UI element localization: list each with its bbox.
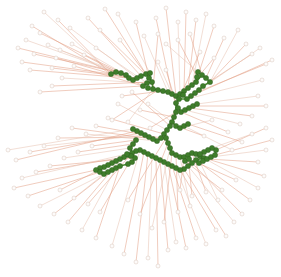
leaf-node[interactable] — [238, 122, 242, 126]
leaf-node[interactable] — [230, 148, 234, 152]
leaf-node[interactable] — [20, 176, 24, 180]
leaf-node[interactable] — [212, 56, 216, 60]
leaf-node[interactable] — [264, 126, 268, 130]
leaf-node[interactable] — [240, 212, 244, 216]
leaf-node[interactable] — [244, 42, 248, 46]
hub-node[interactable] — [133, 137, 138, 142]
leaf-node[interactable] — [146, 102, 150, 106]
leaf-node[interactable] — [106, 116, 110, 120]
leaf-node[interactable] — [54, 56, 58, 60]
leaf-node[interactable] — [258, 46, 262, 50]
leaf-node[interactable] — [176, 210, 180, 214]
hub-node[interactable] — [193, 79, 198, 84]
leaf-node[interactable] — [110, 118, 114, 122]
leaf-node[interactable] — [58, 48, 62, 52]
leaf-node[interactable] — [164, 6, 168, 10]
leaf-node[interactable] — [154, 16, 158, 20]
leaf-node[interactable] — [176, 20, 180, 24]
leaf-node[interactable] — [142, 34, 146, 38]
leaf-node[interactable] — [184, 10, 188, 14]
leaf-node[interactable] — [184, 246, 188, 250]
leaf-node[interactable] — [166, 248, 170, 252]
hub-node[interactable] — [180, 92, 185, 97]
leaf-node[interactable] — [56, 18, 60, 22]
hub-node[interactable] — [118, 70, 123, 75]
leaf-node[interactable] — [188, 204, 192, 208]
hub-node[interactable] — [108, 71, 113, 76]
leaf-node[interactable] — [66, 220, 70, 224]
leaf-node[interactable] — [146, 256, 150, 260]
hub-node[interactable] — [203, 75, 208, 80]
leaf-node[interactable] — [134, 20, 138, 24]
leaf-node[interactable] — [264, 62, 268, 66]
leaf-node[interactable] — [222, 36, 226, 40]
leaf-node[interactable] — [50, 66, 54, 70]
leaf-node[interactable] — [156, 264, 160, 268]
hub-node[interactable] — [194, 74, 199, 79]
leaf-node[interactable] — [150, 226, 154, 230]
leaf-node[interactable] — [190, 194, 194, 198]
hub-node[interactable] — [160, 88, 165, 93]
leaf-node[interactable] — [204, 190, 208, 194]
leaf-node[interactable] — [156, 60, 160, 64]
hub-node[interactable] — [200, 83, 205, 88]
leaf-node[interactable] — [250, 114, 254, 118]
hub-node[interactable] — [207, 79, 212, 84]
leaf-node[interactable] — [38, 90, 42, 94]
hub-node[interactable] — [138, 73, 143, 78]
leaf-node[interactable] — [98, 28, 102, 32]
leaf-node[interactable] — [212, 24, 216, 28]
hub-node[interactable] — [212, 152, 217, 157]
leaf-node[interactable] — [42, 144, 46, 148]
leaf-node[interactable] — [52, 212, 56, 216]
leaf-node[interactable] — [256, 186, 260, 190]
leaf-node[interactable] — [122, 252, 126, 256]
leaf-node[interactable] — [250, 52, 254, 56]
hub-node[interactable] — [150, 86, 155, 91]
leaf-node[interactable] — [220, 188, 224, 192]
leaf-node[interactable] — [214, 228, 218, 232]
hub-node[interactable] — [130, 126, 135, 131]
hub-node[interactable] — [163, 135, 168, 140]
leaf-node[interactable] — [164, 42, 168, 46]
hub-node[interactable] — [155, 87, 160, 92]
leaf-node[interactable] — [86, 16, 90, 20]
leaf-node[interactable] — [98, 210, 102, 214]
leaf-node[interactable] — [194, 236, 198, 240]
leaf-node[interactable] — [198, 50, 202, 54]
hub-node[interactable] — [197, 151, 202, 156]
leaf-node[interactable] — [234, 178, 238, 182]
hub-node[interactable] — [194, 101, 199, 106]
leaf-node[interactable] — [38, 204, 42, 208]
hub-node[interactable] — [171, 114, 176, 119]
leaf-node[interactable] — [248, 198, 252, 202]
leaf-node[interactable] — [60, 76, 64, 80]
hub-node[interactable] — [140, 83, 145, 88]
leaf-node[interactable] — [48, 164, 52, 168]
leaf-node[interactable] — [118, 38, 122, 42]
leaf-node[interactable] — [176, 38, 180, 42]
leaf-node[interactable] — [50, 84, 54, 88]
leaf-node[interactable] — [236, 28, 240, 32]
leaf-node[interactable] — [262, 174, 266, 178]
leaf-node[interactable] — [20, 60, 24, 64]
leaf-node[interactable] — [226, 130, 230, 134]
leaf-node[interactable] — [138, 108, 142, 112]
leaf-node[interactable] — [264, 104, 268, 108]
hub-node[interactable] — [147, 70, 152, 75]
leaf-node[interactable] — [26, 194, 30, 198]
leaf-node[interactable] — [210, 118, 214, 122]
leaf-node[interactable] — [156, 32, 160, 36]
leaf-node[interactable] — [46, 43, 50, 47]
leaf-node[interactable] — [270, 138, 274, 142]
leaf-node[interactable] — [30, 24, 34, 28]
leaf-node[interactable] — [62, 156, 66, 160]
leaf-node[interactable] — [38, 31, 42, 35]
leaf-node[interactable] — [260, 78, 264, 82]
leaf-node[interactable] — [256, 160, 260, 164]
leaf-node[interactable] — [138, 212, 142, 216]
leaf-node[interactable] — [103, 7, 107, 11]
leaf-node[interactable] — [6, 148, 10, 152]
hub-node[interactable] — [117, 163, 122, 168]
leaf-node[interactable] — [264, 148, 268, 152]
